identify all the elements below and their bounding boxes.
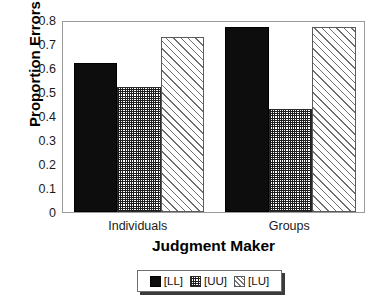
bar-groups-lu [312, 27, 356, 212]
legend-swatch-ll-icon [150, 276, 161, 287]
y-axis-tick-labels: 0.80.70.60.50.40.30.20.10 [18, 0, 56, 305]
y-tick-label: 0.8 [18, 15, 56, 27]
bar-individuals-uu [117, 87, 161, 212]
bar-individuals-ll [74, 63, 118, 212]
bar-groups-uu [269, 109, 313, 212]
y-tick-label: 0.1 [18, 183, 56, 195]
x-axis-title: Judgment Maker [62, 237, 365, 255]
legend-label: [UU] [204, 275, 227, 287]
legend-label: [LU] [248, 275, 269, 287]
chart-legend: [LL][UU][LU] [137, 270, 282, 292]
y-tick-label: 0 [18, 207, 56, 219]
legend-entry: [LL] [150, 275, 183, 287]
bar-groups-ll [225, 27, 269, 212]
legend-swatch-uu-icon [190, 276, 201, 287]
legend-entry: [LU] [234, 275, 269, 287]
x-tick-label: Individuals [88, 219, 188, 233]
legend-entry: [UU] [190, 275, 227, 287]
plot-area [62, 21, 365, 213]
legend-label: [LL] [164, 275, 183, 287]
y-tick-label: 0.4 [18, 111, 56, 123]
y-tick-label: 0.7 [18, 39, 56, 51]
y-tick-label: 0.5 [18, 87, 56, 99]
bars-container [63, 22, 364, 212]
x-tick-label: Groups [239, 219, 339, 233]
legend-swatch-lu-icon [234, 276, 245, 287]
y-tick-label: 0.2 [18, 159, 56, 171]
y-tick-label: 0.3 [18, 135, 56, 147]
bar-individuals-lu [161, 37, 205, 212]
y-tick-label: 0.6 [18, 63, 56, 75]
chart-screenshot: Proportion Errors 0.80.70.60.50.40.30.20… [0, 0, 382, 305]
